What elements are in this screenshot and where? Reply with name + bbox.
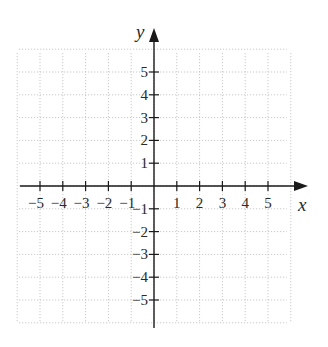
y-tick-label: −3	[132, 246, 148, 262]
x-tick-label: 3	[219, 195, 227, 211]
y-tick-label: 4	[141, 87, 149, 103]
y-tick-label: −1	[132, 201, 148, 217]
x-axis-arrow-icon	[294, 181, 308, 191]
y-tick-label: 1	[141, 155, 149, 171]
y-axis-arrow-icon	[149, 28, 159, 42]
x-axis-label: x	[297, 194, 307, 215]
axes	[20, 28, 308, 328]
x-tick-label: 2	[196, 195, 204, 211]
y-tick-label: 5	[141, 64, 149, 80]
x-tick-label: −2	[96, 195, 112, 211]
y-tick-label: 3	[141, 110, 149, 126]
x-tick-label: −3	[74, 195, 90, 211]
y-tick-label: −4	[132, 269, 148, 285]
y-tick-label: −5	[132, 292, 148, 308]
y-tick-label: 2	[141, 132, 149, 148]
x-tick-label: 1	[173, 195, 181, 211]
x-tick-label: −5	[28, 195, 44, 211]
x-tick-label: −4	[51, 195, 67, 211]
x-tick-label: 4	[241, 195, 249, 211]
x-tick-label: 5	[264, 195, 272, 211]
y-tick-label: −2	[132, 224, 148, 240]
coordinate-plane: −5−4−3−2−112345 54321−1−2−3−4−5 x y	[0, 0, 328, 347]
y-axis-label: y	[134, 21, 145, 42]
